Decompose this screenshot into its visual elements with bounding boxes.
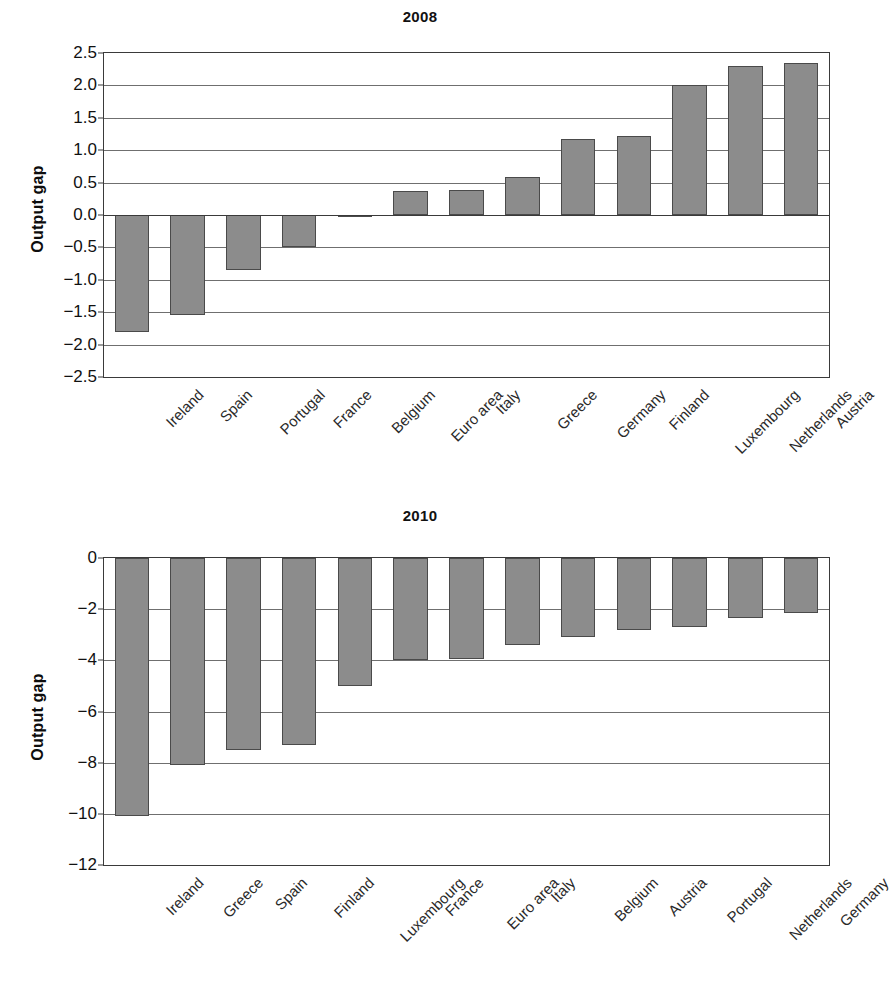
bar [282, 558, 317, 745]
zero-baseline [104, 215, 829, 216]
chart-2008-panel: 2008 Output gap 2.52.01.51.00.50.0−0.5−1… [0, 0, 840, 500]
bar [226, 215, 261, 270]
x-axis-tick-label: Spain [272, 874, 311, 913]
y-axis-tick-mark [98, 150, 104, 151]
y-axis-tick-mark [98, 247, 104, 248]
x-axis-tick-label: Belgium [388, 386, 438, 436]
x-axis-tick-label: Greece [554, 386, 601, 433]
chart-2010-panel: 2010 Output gap 0−2−4−6−8−10−12 IrelandG… [0, 496, 840, 996]
y-axis-tick-label: −2.0 [37, 335, 97, 355]
gridline [104, 345, 829, 346]
bar [728, 66, 763, 215]
x-axis-tick-label: Euro area [447, 386, 506, 445]
y-axis-tick-mark [98, 813, 104, 814]
y-axis-tick-mark [98, 53, 104, 54]
bar [449, 190, 484, 215]
y-axis-tick-label: −10 [37, 804, 97, 824]
y-axis-tick-label: −2.5 [37, 367, 97, 387]
gridline [104, 712, 829, 713]
plot-area-2008: 2.52.01.51.00.50.0−0.5−1.0−1.5−2.0−2.5 [103, 52, 830, 378]
y-axis-tick-mark [98, 377, 104, 378]
bar [672, 85, 707, 215]
x-axis-tick-label: Portugal [277, 386, 329, 438]
gridline [104, 814, 829, 815]
y-axis-tick-mark [98, 117, 104, 118]
bar [170, 558, 205, 765]
y-axis-tick-mark [98, 182, 104, 183]
bar [115, 215, 150, 332]
y-axis-tick-label: 0.5 [37, 173, 97, 193]
y-axis-tick-mark [98, 660, 104, 661]
bar [115, 558, 150, 816]
y-axis-tick-label: −4 [37, 650, 97, 670]
gridline [104, 312, 829, 313]
y-axis-tick-label: 0.0 [37, 205, 97, 225]
bar [672, 558, 707, 627]
gridline [104, 118, 829, 119]
bar [393, 558, 428, 660]
y-axis-tick-label: −8 [37, 753, 97, 773]
y-axis-tick-mark [98, 711, 104, 712]
gridline [104, 247, 829, 248]
x-axis-tick-label: Finland [331, 874, 378, 921]
chart-title-2010: 2010 [0, 507, 840, 524]
gridline [104, 150, 829, 151]
y-axis-tick-label: −2 [37, 599, 97, 619]
bar [505, 177, 540, 215]
gridline [104, 280, 829, 281]
y-axis-tick-label: 2.0 [37, 75, 97, 95]
y-axis-tick-mark [98, 312, 104, 313]
x-axis-tick-label: Spain [216, 386, 255, 425]
bar [170, 215, 205, 315]
x-axis-tick-label: Ireland [162, 386, 206, 430]
y-axis-tick-label: 2.5 [37, 43, 97, 63]
bar [393, 191, 428, 215]
plot-area-2010: 0−2−4−6−8−10−12 [103, 557, 830, 866]
gridline [104, 85, 829, 86]
y-axis-tick-mark [98, 865, 104, 866]
x-axis-tick-label: Finland [665, 386, 712, 433]
y-axis-tick-label: 1.0 [37, 140, 97, 160]
x-axis-tick-label: Greece [219, 874, 266, 921]
bar [282, 215, 317, 247]
bar [505, 558, 540, 645]
x-axis-tick-label: France [330, 386, 375, 431]
bar [561, 139, 596, 215]
y-axis-tick-mark [98, 279, 104, 280]
bar [617, 558, 652, 630]
y-axis-tick-mark [98, 609, 104, 610]
bar [226, 558, 261, 750]
bar [617, 136, 652, 215]
y-axis-tick-mark [98, 762, 104, 763]
y-axis-tick-label: −1.5 [37, 302, 97, 322]
x-axis-tick-label: Belgium [611, 874, 661, 924]
y-axis-tick-label: 0 [37, 548, 97, 568]
x-axis-tick-label: Ireland [162, 874, 206, 918]
gridline [104, 660, 829, 661]
y-axis-tick-label: 1.5 [37, 108, 97, 128]
gridline [104, 763, 829, 764]
y-axis-tick-label: −1.0 [37, 270, 97, 290]
bar [449, 558, 484, 659]
x-axis-tick-label: Portugal [723, 874, 775, 926]
y-axis-tick-label: −6 [37, 702, 97, 722]
y-axis-tick-label: −0.5 [37, 237, 97, 257]
bar [784, 558, 819, 613]
bar [338, 558, 373, 686]
x-axis-tick-label: Austria [664, 874, 709, 919]
y-axis-tick-mark [98, 344, 104, 345]
y-axis-tick-label: −12 [37, 855, 97, 875]
bar [784, 63, 819, 215]
y-axis-tick-mark [98, 558, 104, 559]
bar [561, 558, 596, 637]
chart-title-2008: 2008 [0, 8, 840, 25]
gridline [104, 183, 829, 184]
y-axis-tick-mark [98, 85, 104, 86]
bar [728, 558, 763, 618]
x-axis-tick-label: Germany [613, 386, 669, 442]
x-axis-tick-label: Euro area [503, 874, 562, 933]
